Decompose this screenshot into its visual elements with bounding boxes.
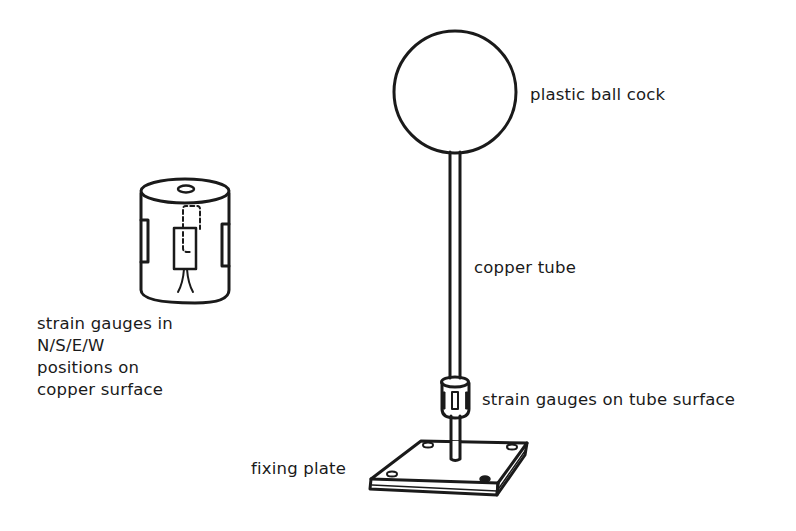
detail-cylinder-bore [178, 186, 194, 193]
detail-label-line: N/S/E/W [37, 335, 173, 357]
fixing-plate [370, 441, 527, 495]
label-strain-gauges-on-tube: strain gauges on tube surface [482, 389, 735, 410]
label-copper-tube: copper tube [474, 257, 576, 278]
detail-cylinder-top [141, 179, 229, 203]
sleeve-top [442, 377, 469, 387]
detail-label-line: copper surface [37, 379, 173, 401]
diagram-canvas [0, 0, 796, 531]
detail-label-line: positions on [37, 357, 173, 379]
detail-gauge-leads [178, 269, 193, 292]
sleeve-gauge-left [442, 392, 445, 409]
tube-gauge-sleeve [442, 377, 470, 418]
label-strain-gauges-detail: strain gauges in N/S/E/W positions on co… [37, 313, 173, 401]
label-plastic-ball-cock: plastic ball cock [530, 84, 665, 105]
plastic-ball-cock [394, 31, 516, 153]
plate-hole-front-right [480, 476, 490, 482]
sleeve-gauge-front [452, 392, 458, 409]
copper-tube [450, 152, 460, 458]
tube-base [451, 441, 460, 461]
label-fixing-plate: fixing plate [251, 458, 346, 479]
gauge-detail-cylinder [141, 179, 229, 303]
detail-label-line: strain gauges in [37, 313, 173, 335]
detail-gauge-south [174, 228, 196, 269]
sleeve-gauge-right [466, 392, 469, 409]
detail-cylinder-body [141, 193, 229, 303]
